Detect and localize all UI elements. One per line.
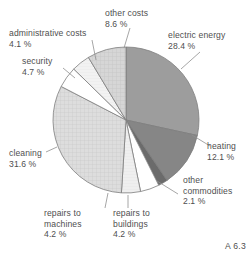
slice-label-security: security 4.7 % — [22, 56, 52, 77]
slice-label-other-costs-name: other costs — [105, 8, 148, 18]
slice-label-other-commodities-pct: 2.1 % — [183, 196, 232, 207]
slice-label-other-commodities-name: other — [183, 175, 203, 185]
slice-label-other-commodities: other commodities 2.1 % — [183, 175, 232, 207]
slice-label-other-costs-pct: 8.6 % — [105, 19, 148, 30]
slice-label-security-pct: 4.7 % — [22, 67, 52, 78]
slice-label-cleaning-pct: 31.6 % — [9, 159, 42, 170]
slice-label-administrative-costs: administrative costs 4.1 % — [9, 28, 86, 49]
slice-label-heating-name: heating — [207, 141, 236, 151]
slice-label-repairs-buildings-name2: buildings — [113, 219, 150, 230]
slice-label-other-costs: other costs 8.6 % — [105, 8, 148, 29]
leader-line-cleaning — [46, 147, 57, 152]
slice-label-administrative-costs-pct: 4.1 % — [9, 39, 86, 50]
slice-label-electric-energy-pct: 28.4 % — [168, 41, 225, 52]
leader-line-other-costs — [124, 28, 130, 48]
slice-label-security-name: security — [22, 56, 52, 66]
pie-slices-group — [53, 47, 199, 193]
pie-chart-figure: electric energy 28.4 % heating 12.1 % ot… — [0, 0, 252, 257]
slice-label-heating: heating 12.1 % — [207, 141, 236, 162]
leader-line-other-commodities — [157, 181, 178, 194]
slice-label-cleaning: cleaning 31.6 % — [9, 148, 42, 169]
slice-label-administrative-costs-name: administrative costs — [9, 28, 86, 38]
slice-label-other-commodities-name2: commodities — [183, 186, 232, 197]
slice-label-repairs-buildings-name: repairs to — [113, 208, 150, 218]
figure-id-label: A 6.3 — [225, 241, 246, 251]
slice-label-electric-energy-name: electric energy — [168, 30, 225, 40]
leader-line-repairs-machines — [105, 193, 108, 208]
slice-label-repairs-machines-name: repairs to — [44, 208, 81, 218]
slice-label-heating-pct: 12.1 % — [207, 152, 236, 163]
slice-label-repairs-machines: repairs to machines 4.2 % — [44, 208, 82, 240]
slice-label-cleaning-name: cleaning — [9, 148, 42, 158]
slice-label-repairs-machines-name2: machines — [44, 219, 82, 230]
slice-label-repairs-buildings-pct: 4.2 % — [113, 229, 150, 240]
leader-line-electric-energy — [181, 52, 200, 69]
slice-label-repairs-buildings: repairs to buildings 4.2 % — [113, 208, 150, 240]
slice-label-repairs-machines-pct: 4.2 % — [44, 229, 82, 240]
slice-label-electric-energy: electric energy 28.4 % — [168, 30, 225, 51]
